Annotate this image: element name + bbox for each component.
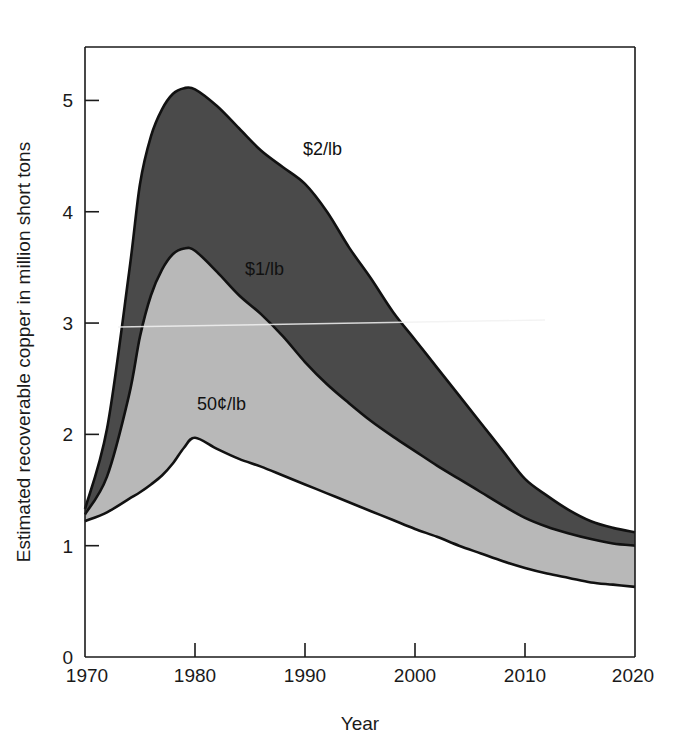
y-tick-label: 5 [62, 90, 73, 111]
x-tick-label: 1980 [174, 665, 216, 686]
x-tick-label: 1990 [284, 665, 326, 686]
x-axis-title: Year [341, 713, 380, 734]
series-label-1dollar: $1/lb [245, 259, 284, 279]
x-tick-label: 2020 [612, 665, 654, 686]
y-tick-label: 4 [62, 202, 73, 223]
y-axis-title: Estimated recoverable copper in million … [13, 142, 34, 562]
x-tick-label: 1970 [66, 665, 108, 686]
x-tick-label: 2000 [394, 665, 436, 686]
y-tick-label: 1 [62, 536, 73, 557]
series-label-2dollar: $2/lb [303, 139, 342, 159]
figure-container: 012345 197019801990200020102020 Year Est… [0, 0, 673, 755]
y-tick-label: 3 [62, 313, 73, 334]
x-tick-label: 2010 [504, 665, 546, 686]
copper-recovery-area-chart: 012345 197019801990200020102020 Year Est… [0, 0, 673, 755]
y-tick-label: 2 [62, 424, 73, 445]
series-label-50cent: 50¢/lb [197, 394, 246, 414]
